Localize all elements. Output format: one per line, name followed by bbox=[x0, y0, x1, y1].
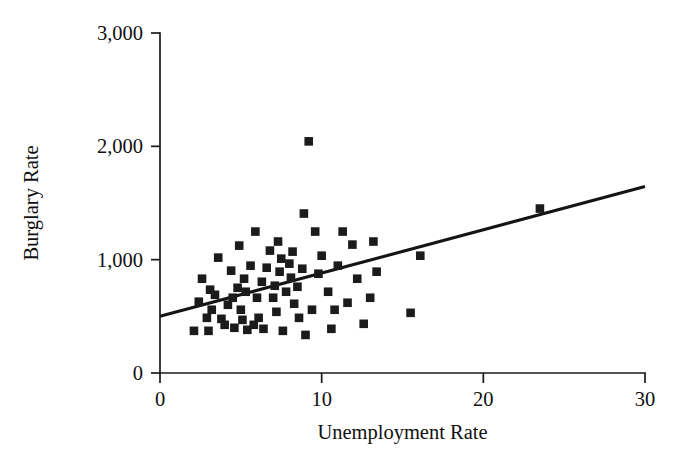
data-point bbox=[343, 298, 352, 307]
data-point bbox=[254, 314, 263, 323]
data-point bbox=[258, 277, 267, 286]
data-point bbox=[416, 251, 425, 260]
data-point bbox=[327, 325, 336, 334]
data-point bbox=[288, 247, 297, 256]
data-point bbox=[330, 305, 339, 314]
scatter-points bbox=[190, 137, 545, 339]
y-axis-title: Burglary Rate bbox=[20, 145, 43, 260]
y-tick-labels: 01,0002,0003,000 bbox=[97, 22, 143, 384]
data-point bbox=[211, 291, 220, 300]
data-point bbox=[536, 204, 545, 213]
data-point bbox=[298, 264, 307, 273]
scatter-plot-figure: 01,0002,0003,000 0102030 Unemployment Ra… bbox=[0, 0, 692, 473]
data-point bbox=[203, 314, 212, 323]
x-tick-label-10: 10 bbox=[311, 388, 332, 410]
data-point bbox=[227, 266, 236, 275]
data-point bbox=[290, 299, 299, 308]
data-point bbox=[301, 331, 310, 340]
data-point bbox=[272, 308, 281, 317]
data-point bbox=[317, 251, 326, 260]
data-point bbox=[238, 316, 247, 325]
y-tick-label-2000: 2,000 bbox=[97, 135, 143, 157]
axes bbox=[160, 33, 645, 373]
x-tick-label-30: 30 bbox=[635, 388, 656, 410]
plot-canvas: 01,0002,0003,000 0102030 Unemployment Ra… bbox=[0, 0, 692, 473]
data-point bbox=[214, 253, 223, 262]
y-tick-label-1000: 1,000 bbox=[97, 249, 143, 271]
data-point bbox=[240, 274, 249, 283]
y-tick-label-3000: 3,000 bbox=[97, 22, 143, 44]
data-point bbox=[348, 240, 357, 249]
data-point bbox=[275, 267, 284, 276]
data-point bbox=[366, 293, 375, 302]
data-point bbox=[190, 327, 199, 336]
data-point bbox=[220, 321, 229, 330]
tick-marks bbox=[151, 33, 645, 383]
data-point bbox=[282, 287, 291, 296]
data-point bbox=[300, 209, 309, 218]
data-point bbox=[279, 327, 288, 336]
data-point bbox=[237, 305, 246, 314]
y-tick-label-0: 0 bbox=[133, 362, 143, 384]
data-point bbox=[274, 237, 283, 246]
data-point bbox=[195, 297, 204, 306]
x-tick-label-20: 20 bbox=[473, 388, 494, 410]
data-point bbox=[198, 274, 207, 283]
data-point bbox=[262, 263, 271, 272]
data-point bbox=[253, 293, 262, 302]
data-point bbox=[406, 309, 415, 318]
data-point bbox=[314, 269, 323, 278]
data-point bbox=[251, 227, 260, 236]
data-point bbox=[266, 246, 275, 255]
x-axis-title: Unemployment Rate bbox=[317, 421, 487, 444]
data-point bbox=[241, 287, 250, 296]
data-point bbox=[246, 261, 255, 270]
data-point bbox=[233, 283, 242, 292]
data-point bbox=[338, 227, 347, 236]
data-point bbox=[287, 273, 296, 282]
data-point bbox=[308, 305, 317, 314]
x-tick-labels: 0102030 bbox=[155, 388, 655, 410]
data-point bbox=[334, 261, 343, 270]
data-point bbox=[277, 254, 286, 263]
data-point bbox=[207, 305, 216, 314]
data-point bbox=[285, 259, 294, 268]
data-point bbox=[369, 237, 378, 246]
data-point bbox=[311, 227, 320, 236]
data-point bbox=[324, 287, 333, 296]
data-point bbox=[269, 293, 278, 302]
data-point bbox=[230, 323, 239, 332]
data-point bbox=[353, 274, 362, 283]
data-point bbox=[304, 137, 313, 146]
data-point bbox=[259, 325, 268, 334]
data-point bbox=[293, 282, 302, 291]
data-point bbox=[235, 241, 244, 250]
data-point bbox=[372, 267, 381, 276]
data-point bbox=[359, 320, 368, 329]
x-tick-label-0: 0 bbox=[155, 388, 165, 410]
data-point bbox=[270, 281, 279, 290]
data-point bbox=[228, 293, 237, 302]
data-point bbox=[204, 327, 213, 336]
data-point bbox=[295, 314, 304, 323]
